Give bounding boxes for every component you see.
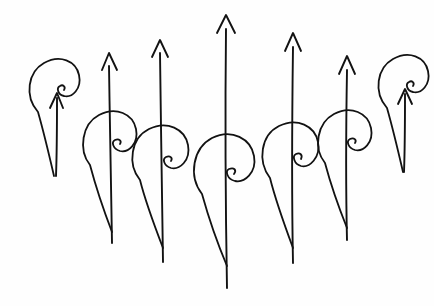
drawing-canvas xyxy=(0,0,434,306)
paper-background xyxy=(0,0,434,306)
spiral-arrow-illustration xyxy=(0,0,434,306)
